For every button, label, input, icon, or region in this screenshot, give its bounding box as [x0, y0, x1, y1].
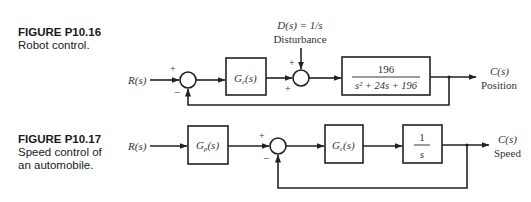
plant-numerator: 196: [378, 63, 395, 75]
output-label: C(s): [498, 133, 517, 146]
disturbance-caption: Disturbance: [273, 33, 326, 45]
diagram-speed-control: R(s) Gp(s) + − Gc(s) 1 s C(s) Speed: [127, 125, 521, 188]
summing-junction: [270, 138, 286, 154]
output-caption: Speed: [494, 147, 521, 159]
junction-plus: +: [259, 130, 265, 141]
controller-label: Gc(s): [234, 72, 257, 86]
input-label-r: R(s): [127, 140, 147, 153]
junction-minus: −: [263, 152, 269, 164]
junction1-minus: −: [174, 86, 180, 98]
input-label-r: R(s): [127, 74, 147, 87]
diagram-robot-control: R(s) + − Gc(s) D(s) = 1/s Disturbance + …: [127, 19, 518, 105]
prefilter-label: Gp(s): [196, 139, 219, 153]
junction2-plus-bottom: +: [285, 83, 291, 94]
block-diagrams: R(s) + − Gc(s) D(s) = 1/s Disturbance + …: [0, 0, 531, 202]
output-caption: Position: [481, 79, 518, 91]
junction2-plus-top: +: [289, 57, 295, 68]
integrator-numerator: 1: [419, 131, 425, 143]
summing-junction-2: [293, 70, 309, 86]
junction1-plus: +: [170, 63, 176, 74]
output-label: C(s): [490, 65, 509, 78]
summing-junction-1: [180, 72, 196, 88]
controller-label: Gc(s): [332, 139, 355, 153]
disturbance-label: D(s) = 1/s: [276, 19, 322, 32]
plant-denominator: s² + 24s + 196: [355, 80, 418, 91]
integrator-denominator: s: [420, 148, 424, 160]
